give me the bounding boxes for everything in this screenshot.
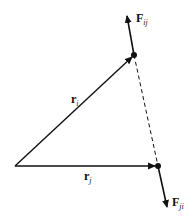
force-diagram: Fij ri rj Fji bbox=[0, 0, 195, 221]
force-f-ji bbox=[158, 166, 167, 207]
label-f-ji: Fji bbox=[172, 195, 184, 211]
label-r-j: rj bbox=[84, 169, 92, 185]
particle-j bbox=[155, 163, 161, 169]
dashed-connector bbox=[134, 55, 158, 166]
particle-i bbox=[131, 52, 137, 58]
force-f-ij bbox=[127, 16, 134, 55]
vector-r-i bbox=[15, 57, 132, 166]
label-f-ij: Fij bbox=[136, 11, 149, 27]
label-r-i: ri bbox=[71, 92, 79, 108]
